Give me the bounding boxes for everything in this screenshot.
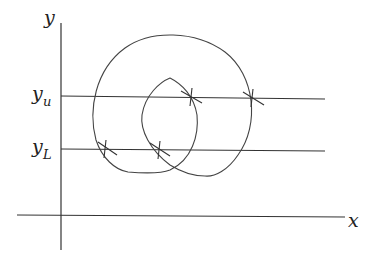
x-axis	[17, 215, 345, 217]
y-axis-label: y	[43, 6, 55, 28]
lower-level-label: y	[31, 135, 43, 157]
lower-level-subscript: L	[42, 147, 52, 162]
upper-level-label: y	[31, 82, 43, 104]
upper-level-subscript: u	[43, 94, 51, 109]
diagram-canvas: y x y u y L	[0, 0, 374, 262]
x-axis-label: x	[348, 209, 359, 231]
